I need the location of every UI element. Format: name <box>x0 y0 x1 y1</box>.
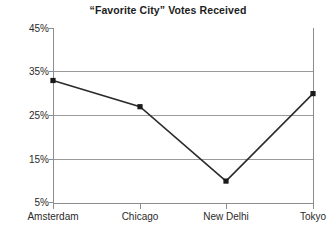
data-point-new-delhi <box>223 179 228 184</box>
data-point-amsterdam <box>50 78 55 83</box>
data-point-chicago <box>137 104 142 109</box>
series-line-votes-received <box>53 81 313 182</box>
chart-figure: “Favorite City” Votes Received 45% 35% 2… <box>0 0 336 236</box>
series-line-chart <box>0 0 336 236</box>
data-point-tokyo <box>310 91 315 96</box>
